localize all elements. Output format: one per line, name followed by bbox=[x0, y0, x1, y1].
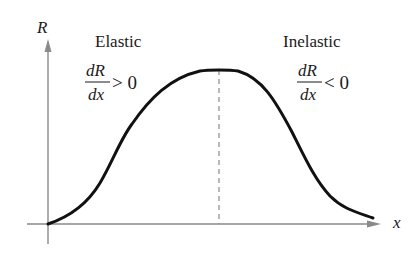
inelastic-numerator: dR bbox=[298, 61, 318, 80]
elastic-denominator: dx bbox=[88, 85, 105, 104]
diagram-canvas: R x Elastic dR dx > 0 Inelastic dR dx < … bbox=[0, 0, 412, 254]
x-axis-label: x bbox=[392, 213, 401, 232]
revenue-elasticity-diagram: R x Elastic dR dx > 0 Inelastic dR dx < … bbox=[0, 0, 412, 254]
elastic-relation: > 0 bbox=[112, 72, 137, 93]
inelastic-denominator: dx bbox=[300, 85, 317, 104]
inelastic-relation: < 0 bbox=[324, 72, 349, 93]
inelastic-derivative-expression: dR dx < 0 bbox=[297, 61, 349, 104]
elastic-numerator: dR bbox=[86, 61, 106, 80]
y-axis-arrow-icon bbox=[45, 39, 52, 52]
inelastic-label: Inelastic bbox=[283, 32, 341, 51]
elastic-label: Elastic bbox=[95, 32, 142, 51]
elastic-derivative-expression: dR dx > 0 bbox=[85, 61, 137, 104]
y-axis-label: R bbox=[36, 18, 48, 37]
x-axis-arrow-icon bbox=[367, 221, 381, 228]
